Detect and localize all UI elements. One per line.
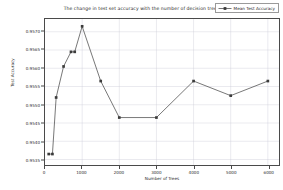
y-axis-tick-labels: 0.95350.95400.95450.95500.95550.95600.95… [0, 18, 44, 166]
x-tick-mark [194, 166, 195, 169]
x-tick-mark [44, 166, 45, 169]
x-tick-label: 1000 [76, 170, 86, 175]
x-tick-mark [269, 166, 270, 169]
legend-line-marker-icon [218, 6, 232, 11]
x-tick-label: 2000 [114, 170, 124, 175]
y-tick-label: 0.9540 [26, 139, 40, 144]
x-tick-label: 3000 [151, 170, 161, 175]
y-tick-label: 0.9550 [26, 102, 40, 107]
x-tick-label: 5000 [226, 170, 236, 175]
y-tick-label: 0.9535 [26, 158, 40, 163]
x-tick-label: 6000 [264, 170, 274, 175]
legend-entry-label: Mean Test Accuracy [234, 6, 275, 11]
data-series-layer [45, 19, 279, 165]
chart-figure: The change in test set accuracy with the… [0, 0, 283, 190]
plot-area [44, 18, 280, 166]
legend: Mean Test Accuracy [215, 3, 279, 13]
x-tick-mark [156, 166, 157, 169]
grid-lines [45, 19, 279, 165]
x-tick-mark [81, 166, 82, 169]
y-tick-label: 0.9570 [26, 28, 40, 33]
x-axis-label: Number of Trees [44, 176, 280, 181]
x-tick-mark [231, 166, 232, 169]
y-tick-label: 0.9555 [26, 84, 40, 89]
y-tick-label: 0.9560 [26, 65, 40, 70]
x-tick-label: 0 [43, 170, 46, 175]
x-tick-mark [119, 166, 120, 169]
x-tick-label: 4000 [189, 170, 199, 175]
y-tick-label: 0.9565 [26, 47, 40, 52]
x-axis-tick-labels: 0100020003000400050006000 [44, 166, 280, 176]
y-tick-label: 0.9545 [26, 121, 40, 126]
